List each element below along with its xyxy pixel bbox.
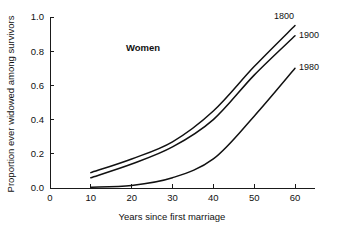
series-labels-group: 180019001980: [274, 11, 319, 73]
axes-group: [50, 17, 315, 188]
x-axis-title: Years since first marriage: [119, 211, 226, 222]
x-tick-label: 50: [249, 192, 260, 203]
x-tick-label: 40: [208, 192, 219, 203]
y-tick-label: 0.8: [31, 46, 44, 57]
panel-annotation-women: Women: [126, 42, 160, 53]
y-tick-label: 0.4: [31, 114, 44, 125]
y-axis-title: Proportion ever widowed among survivors: [5, 15, 16, 192]
series-label-1980: 1980: [299, 62, 319, 72]
y-axis-ticks: 0.00.20.40.60.81.0: [31, 11, 54, 193]
y-tick-label: 0.6: [31, 80, 44, 91]
x-tick-label: 30: [167, 192, 178, 203]
series-group: [91, 26, 295, 188]
chart-container: 0.00.20.40.60.81.0 0102030405060 1800190…: [0, 0, 337, 234]
line-chart: 0.00.20.40.60.81.0 0102030405060 1800190…: [0, 0, 337, 234]
series-line-1800: [91, 26, 295, 173]
x-tick-label: 20: [126, 192, 137, 203]
y-tick-label: 0.0: [31, 182, 44, 193]
y-tick-label: 1.0: [31, 11, 44, 22]
y-tick-label: 0.2: [31, 148, 44, 159]
x-tick-label: 60: [290, 192, 301, 203]
x-tick-label: 0: [47, 192, 52, 203]
x-axis-ticks: 0102030405060: [47, 184, 300, 203]
series-label-1800: 1800: [274, 11, 294, 21]
x-tick-label: 10: [86, 192, 97, 203]
series-label-1900: 1900: [299, 30, 319, 40]
